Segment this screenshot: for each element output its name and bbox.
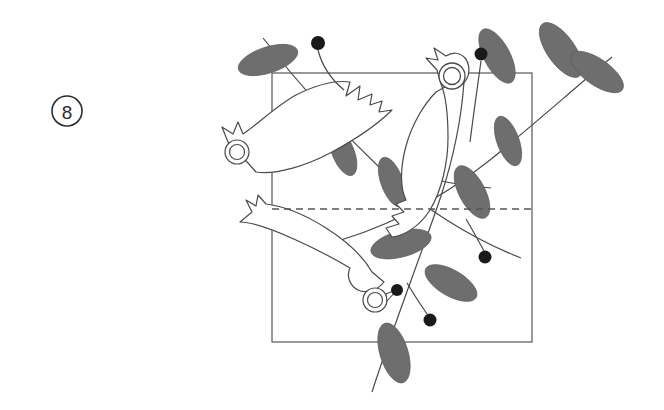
bird-lower-center-eye-inner [368,293,383,308]
berry-top-left [311,36,325,50]
figure-number-label: 8 [62,102,73,123]
berry-mid-right [479,251,492,264]
illustration-canvas: 8 [0,0,664,410]
bird-upper-left-eye-inner [230,145,245,160]
berry-beak-dot [391,284,403,296]
berry-top-right [475,48,488,61]
berry-lower [424,314,437,327]
bird-upper-right-eye-inner [444,68,461,85]
figure-illustration-root: 8 [0,0,664,410]
